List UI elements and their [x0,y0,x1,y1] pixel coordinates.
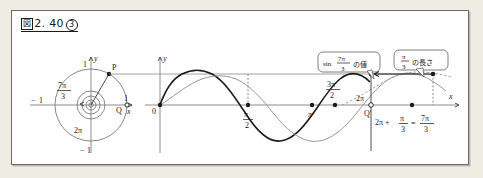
graph-tick-origin [158,103,162,107]
length-callout-tail [416,68,424,77]
length-callout-denominator: 3 [402,63,406,71]
unit-circle-angle-label: 7π 3 [57,81,71,101]
equation-numer1: π [400,114,404,123]
graph-y-axis-label: y [162,54,167,63]
length-callout-numerator: π [402,53,406,61]
tick-label-3pi-over-2: 3π 2 [326,80,340,100]
equation-numer2: 7π [421,114,429,123]
angle-numerator: 7π [58,81,66,90]
length-callout-suffix: の長さ [412,59,433,67]
tick-pi-over-2-denominator: 2 [245,121,249,130]
equation-lead: 2π + [375,118,390,127]
graph-tick-pi [310,103,314,107]
tick-label-pi-over-2: π 2 [243,110,253,130]
unit-circle-bottom-label: 1 [87,146,91,155]
point-q-label: Q [116,106,122,115]
point-p-label: P [112,63,117,72]
graph-origin-label: 0 [152,107,156,116]
angle-denominator: 3 [61,92,65,101]
unit-circle-x-axis-label: x [126,107,131,116]
graph-tick-3pi-over-2 [333,103,337,107]
equation-denom1: 3 [401,125,405,134]
sin-value-callout-numerator: 7π [338,55,346,63]
sine-curve-dark-segment-a [160,70,370,141]
unit-circle-radius-op [91,74,109,105]
figure-frame: 図2. 403 P [11,10,469,165]
graph-tick-7pi-over-3 [410,103,414,107]
equation-denom2: 3 [424,125,428,134]
tick-3pi-over-2-numerator: 3π [327,80,335,89]
unit-circle-group: P Q 1 − 1 − 1 1 y x 7π 3 2π [30,54,132,155]
point-7pi-over-3-marker [431,72,436,77]
unit-circle-right-label: 1 [124,94,128,103]
point-q-prime-label: Q′ [364,109,372,118]
unit-circle-left-sign: − [31,96,36,105]
sin-value-callout-prefix: sin [323,60,332,68]
unit-circle-turn-label: 2π [74,126,82,135]
tick-pi-over-2-numerator: π [244,110,248,119]
graph-x-axis-label: x [448,92,453,101]
tick-label-pi: π [308,110,312,119]
sin-value-callout-denominator: 3 [341,65,345,73]
unit-circle-y-axis-label: y [93,54,98,63]
length-callout: π 3 の長さ [394,50,448,77]
figure-canvas: P Q 1 − 1 − 1 1 y x 7π 3 2π [12,11,470,166]
graph-tick-2pi [369,103,374,108]
equation-group: 2π + π 3 = 7π 3 [375,114,434,134]
unit-circle-top-label: 1 [83,60,87,69]
tick-label-2pi: 2π [356,94,364,103]
unit-circle-bottom-sign: − [80,146,85,155]
sin-value-callout-suffix: の値 [353,60,367,69]
graph-tick-pi-over-2 [246,103,250,107]
equation-equals: = [411,119,416,128]
unit-circle-left-label: 1 [39,96,43,105]
tick-3pi-over-2-denominator: 2 [330,91,334,100]
